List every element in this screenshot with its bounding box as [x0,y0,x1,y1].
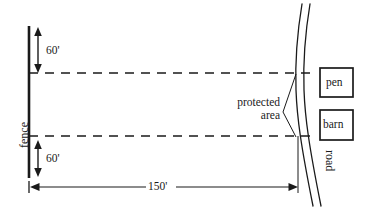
top-60ft-dimension-arrow [34,27,42,73]
fence-road-diagram: fence road 60' 60' 150' protected area p… [0,0,366,210]
bottom-60ft-dimension-arrow [34,140,42,177]
protected-area-label: protected area [198,96,280,122]
barn-label: barn [323,118,343,131]
top-60ft-dimension-label: 60' [46,44,60,57]
protected-area-label-line2: area [198,109,280,122]
diagram-canvas [0,0,366,210]
road-curves [296,4,321,206]
pen-label: pen [326,76,343,89]
bottom-60ft-dimension-label: 60' [46,152,60,165]
fence-label: fence [18,122,31,148]
protected-area-label-line1: protected [198,96,280,109]
150ft-dimension-label: 150' [148,180,167,193]
road-label: road [323,150,336,171]
road-right-edge [304,4,321,206]
protected-area-leader-lines [283,74,296,137]
